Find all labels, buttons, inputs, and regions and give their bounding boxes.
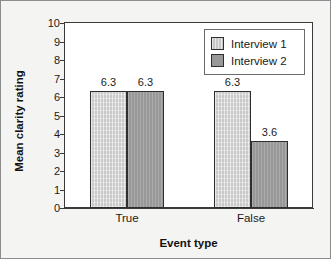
- bar: [251, 141, 288, 208]
- legend-item-label: Interview 2: [231, 55, 287, 67]
- y-axis-tick-mark: [60, 79, 64, 80]
- x-axis-category-label: False: [211, 212, 291, 224]
- y-axis-tick-mark: [60, 116, 64, 117]
- y-axis-tick-mark: [60, 190, 64, 191]
- y-axis-tick-mark: [60, 60, 64, 61]
- bar-chart-figure: 109876543210 Mean clarity rating Event t…: [0, 0, 331, 259]
- bar: [90, 91, 127, 208]
- legend-item: Interview 1: [211, 35, 298, 52]
- y-axis-tick-label: 8: [37, 55, 60, 66]
- bar: [214, 91, 251, 208]
- y-axis-tick-mark: [60, 208, 64, 209]
- y-axis-tick-label: 3: [37, 147, 60, 158]
- y-axis-tick-label: 6: [37, 92, 60, 103]
- y-axis-tick-label: 10: [37, 18, 60, 29]
- legend-item: Interview 2: [211, 52, 298, 69]
- bar-value-label: 6.3: [225, 76, 240, 88]
- bar: [127, 91, 164, 208]
- y-axis-tick-label: 7: [37, 73, 60, 84]
- x-axis-line: [64, 208, 314, 209]
- x-axis-title: Event type: [64, 237, 313, 249]
- x-axis-category-label: True: [87, 212, 167, 224]
- legend-swatch-icon: [211, 54, 224, 67]
- y-axis-title: Mean clarity rating: [13, 46, 25, 196]
- bar-group-item: 6.3: [90, 23, 127, 208]
- y-axis-tick-label: 4: [37, 129, 60, 140]
- legend-swatch-icon: [211, 37, 224, 50]
- y-axis-tick-mark: [60, 97, 64, 98]
- chart-legend: Interview 1 Interview 2: [204, 29, 305, 75]
- y-axis-tick-label: 2: [37, 166, 60, 177]
- y-axis-tick-label: 1: [37, 184, 60, 195]
- y-axis-tick-mark: [60, 171, 64, 172]
- y-axis-tick-label: 0: [37, 203, 60, 214]
- bar-value-label: 3.6: [262, 126, 277, 138]
- y-axis-tick-mark: [60, 23, 64, 24]
- y-axis-tick-label: 5: [37, 110, 60, 121]
- y-axis-tick-label: 9: [37, 36, 60, 47]
- bar-group-item: 6.3: [127, 23, 164, 208]
- y-axis-tick-mark: [60, 42, 64, 43]
- y-axis-tick-mark: [60, 153, 64, 154]
- bar-value-label: 6.3: [101, 76, 116, 88]
- y-axis-tick-labels: 109876543210: [37, 1, 60, 259]
- bar-value-label: 6.3: [138, 76, 153, 88]
- y-axis-tick-mark: [60, 134, 64, 135]
- legend-item-label: Interview 1: [231, 38, 287, 50]
